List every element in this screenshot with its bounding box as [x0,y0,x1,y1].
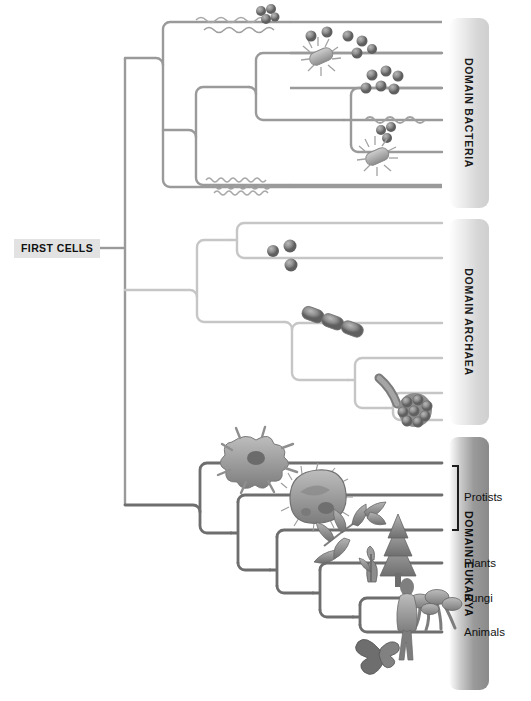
group-label-protists: Protists [464,491,502,503]
group-label-fungi: Fungi [464,592,493,604]
bacteria-branches [125,22,442,187]
group-label-plants: Plants [464,557,496,569]
cocci-icon [361,66,404,95]
amoeba-icon [218,427,297,493]
bacillus-icon [357,136,398,176]
bacteria-tips [290,22,442,187]
group-label-animals: Animals [464,626,505,638]
tree-plant-icon [359,514,416,587]
first-cells-label: FIRST CELLS [14,239,100,258]
chain-icon [379,378,397,404]
phylogenetic-tree-figure: DOMAIN BACTERIA DOMAIN ARCHAEA DOMAIN EU… [0,0,531,701]
bacillus-icon [301,37,341,76]
spirillum-icon [365,117,425,123]
berry-cluster-icon [398,393,432,427]
protists-bracket [452,466,458,530]
cocci-icon [267,240,298,272]
rod-chain-icon [300,305,365,339]
animal-icon [356,578,418,674]
tree-branches [0,0,531,701]
